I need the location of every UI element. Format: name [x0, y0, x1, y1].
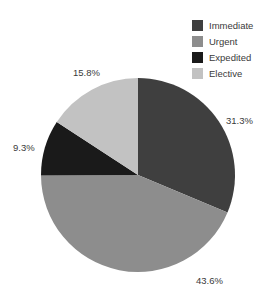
legend-label-immediate: Immediate: [209, 20, 253, 31]
chart-legend: Immediate Urgent Expedited Elective: [192, 17, 274, 81]
legend-item-expedited[interactable]: Expedited: [192, 49, 274, 65]
legend-item-elective[interactable]: Elective: [192, 65, 274, 81]
legend-item-urgent[interactable]: Urgent: [192, 33, 274, 49]
slice-value-label-expedited: 9.3%: [13, 142, 35, 153]
slice-value-label-immediate: 31.3%: [226, 115, 253, 126]
legend-label-urgent: Urgent: [209, 36, 238, 47]
slice-value-label-elective: 15.8%: [73, 67, 100, 78]
pie-slice-group: [41, 78, 235, 272]
legend-label-expedited: Expedited: [209, 52, 251, 63]
legend-swatch-immediate: [192, 20, 203, 31]
legend-label-elective: Elective: [209, 68, 242, 79]
legend-swatch-expedited: [192, 52, 203, 63]
legend-swatch-elective: [192, 68, 203, 79]
pie-chart-figure: Immediate Urgent Expedited Elective 31.3…: [0, 0, 275, 307]
legend-item-immediate[interactable]: Immediate: [192, 17, 274, 33]
slice-value-label-urgent: 43.6%: [196, 275, 223, 286]
legend-swatch-urgent: [192, 36, 203, 47]
